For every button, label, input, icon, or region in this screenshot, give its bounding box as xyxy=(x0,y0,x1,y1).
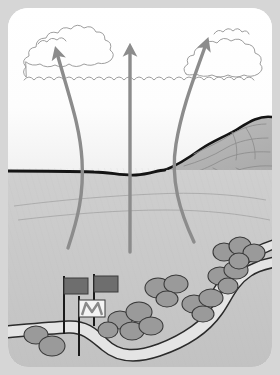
illustration-canvas xyxy=(0,0,280,375)
rounded-card-frame xyxy=(8,8,272,367)
bush xyxy=(199,289,223,307)
bush xyxy=(98,322,118,338)
landscape-illustration xyxy=(8,8,272,367)
bush xyxy=(229,253,249,269)
flag-cloth xyxy=(64,278,88,294)
bush xyxy=(164,275,188,293)
bush xyxy=(139,317,163,335)
flag-cloth xyxy=(94,276,118,292)
bush xyxy=(156,291,178,307)
bush xyxy=(218,278,238,294)
bush xyxy=(39,336,65,356)
bush xyxy=(192,306,214,322)
